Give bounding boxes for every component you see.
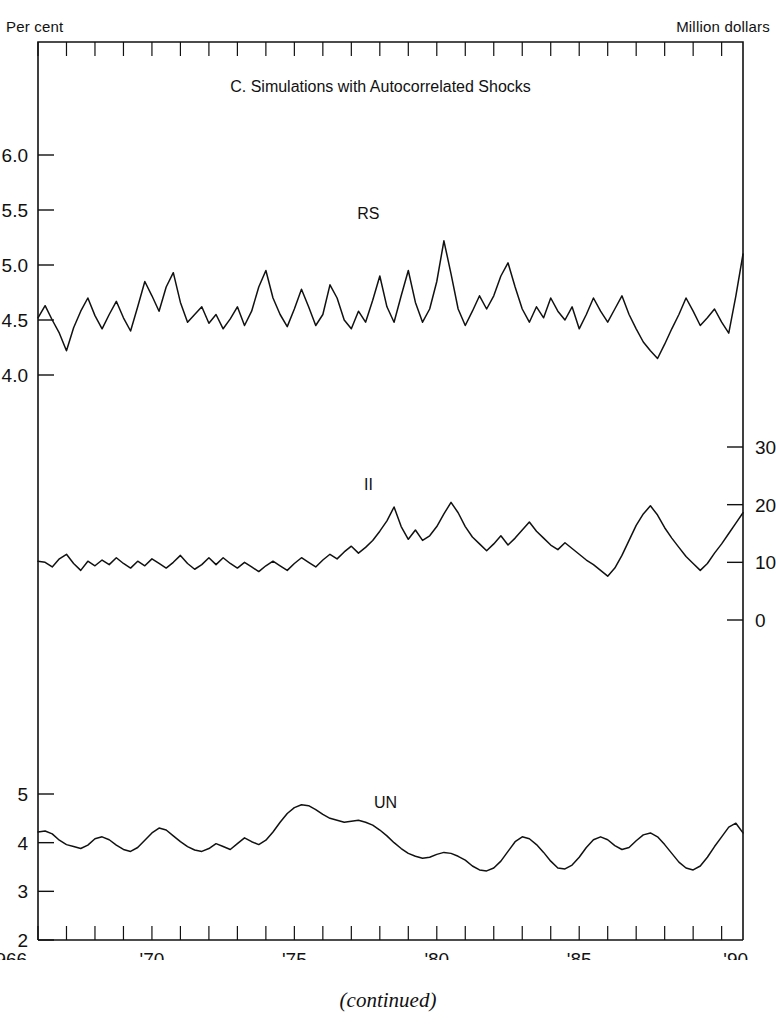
chart-title: C. Simulations with Autocorrelated Shock… xyxy=(230,78,531,95)
y-tick-label-left: 3 xyxy=(17,881,28,902)
y-tick-label-right: 20 xyxy=(755,495,776,516)
figure-panel-c: Per cent Million dollars 1966'70'75'80'8… xyxy=(0,0,776,1034)
y-tick-label-left: 5 xyxy=(17,784,28,805)
x-tick-label: '80 xyxy=(424,949,449,960)
y-tick-label-left: 4.0 xyxy=(2,365,28,386)
figure-continued-caption: (continued) xyxy=(0,988,776,1013)
x-tick-label: '90 xyxy=(723,949,748,960)
y-tick-label-right: 10 xyxy=(755,552,776,573)
y-tick-label-left: 5.0 xyxy=(2,255,28,276)
series-line-rs xyxy=(38,241,743,359)
y-tick-label-right: 30 xyxy=(755,437,776,458)
series-label-ii: II xyxy=(364,476,373,493)
series-line-un xyxy=(38,805,743,871)
x-tick-label: '70 xyxy=(140,949,165,960)
y-tick-label-left: 4 xyxy=(17,833,28,854)
y-tick-label-left: 4.5 xyxy=(2,310,28,331)
series-label-rs: RS xyxy=(357,205,379,222)
left-axis-unit-label: Per cent xyxy=(6,18,63,35)
y-tick-label-left: 5.5 xyxy=(2,200,28,221)
right-axis-unit-label: Million dollars xyxy=(676,18,770,35)
x-tick-label: '75 xyxy=(282,949,307,960)
x-tick-label: '85 xyxy=(567,949,592,960)
y-tick-label-left: 2 xyxy=(17,930,28,951)
y-tick-label-right: 0 xyxy=(755,610,766,631)
series-label-un: UN xyxy=(374,794,397,811)
chart-plot-area: 1966'70'75'80'85'906.05.55.04.54.0RS3020… xyxy=(0,0,776,960)
series-line-ii xyxy=(38,502,743,576)
y-tick-label-left: 6.0 xyxy=(2,145,28,166)
